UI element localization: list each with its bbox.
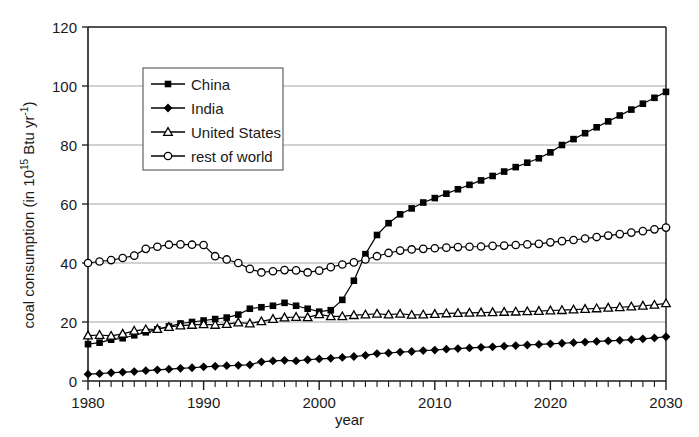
marker-open-circle [420,245,427,252]
marker-open-circle [96,258,103,265]
marker-filled-diamond [153,365,162,374]
marker-filled-square [628,106,635,113]
marker-filled-square [489,173,496,180]
marker-filled-square [443,190,450,197]
legend: ChinaIndiaUnited Statesrest of world [143,68,283,170]
marker-filled-diamond [500,342,509,351]
marker-open-circle [524,241,531,248]
y-tick-label: 120 [52,19,77,36]
marker-open-circle [292,267,299,274]
marker-filled-diamond [523,341,532,350]
marker-open-circle [593,233,600,240]
marker-filled-square [408,205,415,212]
marker-filled-square [165,81,172,88]
marker-filled-diamond [176,364,185,373]
marker-open-circle [605,232,612,239]
marker-open-circle [535,240,542,247]
marker-filled-diamond [257,357,266,366]
series-united-states [84,299,671,339]
y-tick-label: 80 [60,137,77,154]
marker-open-circle [235,259,242,266]
marker-filled-diamond [199,362,208,371]
marker-open-circle [119,254,126,261]
marker-filled-square [478,177,485,184]
marker-filled-diamond [419,346,428,355]
marker-filled-square [385,220,392,227]
marker-open-circle [454,243,461,250]
marker-open-circle [639,227,646,234]
marker-filled-diamond [326,354,335,363]
marker-filled-square [593,124,600,131]
marker-filled-diamond [638,334,647,343]
marker-filled-diamond [454,344,463,353]
marker-filled-diamond [222,361,231,370]
x-tick-label: 2010 [418,394,451,411]
marker-open-circle [316,267,323,274]
legend-label: rest of world [191,148,273,165]
marker-filled-square [293,302,300,309]
marker-filled-diamond [107,368,116,377]
marker-open-triangle [396,309,405,317]
marker-filled-square [432,195,439,202]
marker-filled-square [512,164,519,171]
marker-filled-diamond [604,336,613,345]
marker-open-circle [616,230,623,237]
marker-filled-diamond [384,349,393,358]
marker-filled-diamond [95,369,104,378]
marker-filled-diamond [338,353,347,362]
legend-label: United States [191,124,281,141]
marker-open-circle [154,243,161,250]
y-axis-title: coal consumption (in 1015 Btu yr-1) [20,35,37,395]
marker-open-circle [396,247,403,254]
marker-filled-diamond [511,341,520,350]
marker-filled-square [339,297,346,304]
marker-filled-square [455,186,462,193]
marker-filled-diamond [118,368,127,377]
x-tick-label: 2000 [303,394,336,411]
marker-filled-diamond [349,352,358,361]
marker-open-circle [84,259,91,266]
marker-filled-diamond [627,335,636,344]
y-tick-label: 20 [60,314,77,331]
marker-filled-diamond [615,336,624,345]
marker-open-triangle [292,313,301,321]
marker-filled-diamond [546,339,555,348]
marker-open-circle [350,259,357,266]
marker-filled-diamond [211,362,220,371]
series-india [84,332,671,378]
marker-open-circle [223,256,230,263]
marker-filled-diamond [477,343,486,352]
marker-open-circle [651,226,658,233]
marker-filled-square [466,182,473,189]
marker-filled-diamond [234,361,243,370]
marker-open-triangle [95,331,104,339]
marker-filled-diamond [130,367,139,376]
marker-open-circle [177,241,184,248]
marker-open-triangle [373,309,382,317]
marker-open-circle [373,253,380,260]
marker-filled-square [582,130,589,137]
marker-open-circle [385,249,392,256]
x-tick-label: 1980 [71,394,104,411]
marker-open-circle [327,263,334,270]
marker-open-circle [281,266,288,273]
marker-open-circle [581,235,588,242]
y-tick-label: 0 [69,373,77,390]
marker-open-circle [188,241,195,248]
marker-filled-diamond [488,342,497,351]
marker-open-circle [628,229,635,236]
marker-filled-square [616,112,623,119]
marker-filled-square [547,149,554,156]
marker-open-circle [558,237,565,244]
y-tick-label: 100 [52,78,77,95]
marker-filled-square [247,305,254,312]
marker-filled-diamond [650,334,659,343]
marker-open-circle [500,242,507,249]
marker-filled-diamond [303,355,312,364]
marker-open-circle [466,243,473,250]
marker-filled-square [96,339,103,346]
marker-filled-diamond [269,357,278,366]
marker-filled-square [374,232,381,239]
marker-open-circle [512,241,519,248]
marker-open-circle [431,245,438,252]
